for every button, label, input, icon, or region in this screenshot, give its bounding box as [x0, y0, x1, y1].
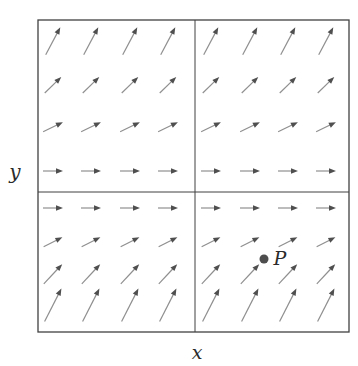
x-axis-label: x — [192, 343, 203, 362]
point-p-label: P — [274, 249, 287, 268]
point-p-dot — [260, 255, 269, 264]
y-axis-label: y — [9, 162, 20, 182]
vector-field-figure: y x P — [0, 0, 358, 366]
field-border — [38, 20, 349, 332]
vector-field-plot — [0, 0, 358, 366]
